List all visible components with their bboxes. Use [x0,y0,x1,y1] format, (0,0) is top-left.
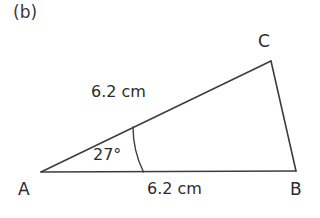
vertex-label-b: B [290,181,302,198]
side-ab-length-label: 6.2 cm [147,181,202,197]
line-side-ab [41,171,296,172]
figure-canvas: (b) A B C 27° 6.2 cm 6.2 cm [0,0,320,218]
line-side-ac [41,61,271,172]
part-label: (b) [13,4,37,21]
angle-arc-a [133,127,144,172]
side-ac-length-label: 6.2 cm [91,84,146,100]
angle-measure-label: 27° [93,147,121,163]
vertex-label-a: A [18,181,30,198]
vertex-label-c: C [258,33,270,50]
line-side-cb [271,61,296,171]
